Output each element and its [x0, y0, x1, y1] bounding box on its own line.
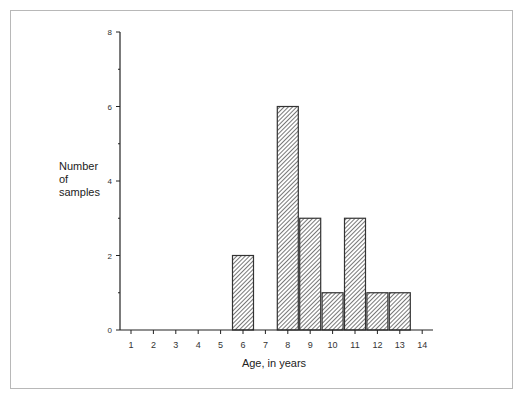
y-tick-label: 6 — [108, 103, 113, 112]
y-axis-label: Number of samples — [59, 160, 100, 199]
x-axis-label: Age, in years — [0, 357, 526, 369]
x-tick-label: 2 — [151, 340, 156, 350]
x-tick-label: 1 — [128, 340, 133, 350]
x-tick-label: 13 — [395, 340, 405, 350]
x-tick-label: 5 — [218, 340, 223, 350]
bar-age-12 — [367, 293, 388, 330]
y-tick-label: 2 — [108, 252, 113, 261]
bar-age-8 — [277, 107, 298, 331]
y-tick-label: 8 — [108, 28, 113, 37]
x-tick-label: 9 — [308, 340, 313, 350]
y-tick-label: 0 — [108, 326, 113, 335]
bar-age-13 — [389, 293, 410, 330]
x-tick-label: 14 — [417, 340, 427, 350]
x-tick-label: 11 — [350, 340, 359, 350]
bar-age-10 — [322, 293, 343, 330]
y-axis-label-line: samples — [59, 186, 100, 199]
bar-age-9 — [300, 218, 321, 330]
x-tick-label: 8 — [285, 340, 290, 350]
x-tick-label: 6 — [240, 340, 245, 350]
y-axis-label-line: of — [59, 173, 100, 186]
y-tick-label: 4 — [108, 177, 113, 186]
x-tick-label: 3 — [173, 340, 178, 350]
x-tick-label: 10 — [328, 340, 338, 350]
bar-age-11 — [345, 218, 366, 330]
x-tick-label: 4 — [196, 340, 201, 350]
x-tick-label: 7 — [263, 340, 268, 350]
bar-age-6 — [233, 256, 254, 331]
x-tick-label: 12 — [372, 340, 382, 350]
bars-group — [233, 107, 411, 331]
bar-chart: 024681234567891011121314 — [0, 0, 526, 404]
y-axis-label-line: Number — [59, 160, 100, 173]
